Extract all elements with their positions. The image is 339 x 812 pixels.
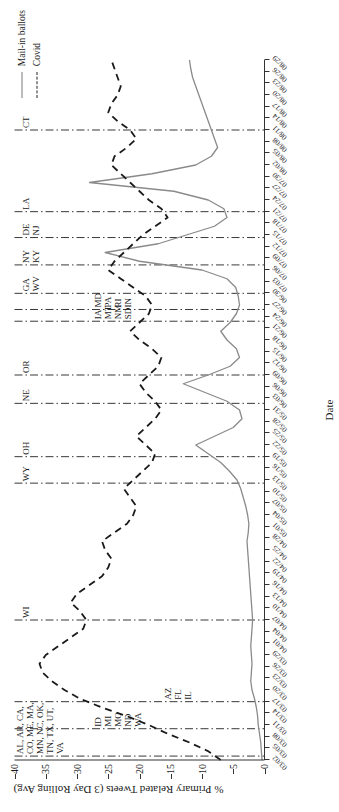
y-tick-mark (233, 769, 234, 774)
legend-label: Covid (31, 43, 41, 66)
series-lines (39, 60, 262, 760)
y-tick-mark (170, 774, 171, 779)
y-tick-mark (108, 774, 109, 779)
y-tick-label: 40 (9, 764, 20, 774)
y-tick-label: 25 (102, 764, 113, 774)
y-tick-label: 20 (134, 764, 145, 774)
y-tick-label: 5 (227, 764, 238, 769)
plot-area: 0510152025303540 03/0203/0503/0803/1103/… (14, 60, 264, 760)
y-tick-mark (264, 769, 265, 774)
chart-canvas (14, 60, 264, 760)
y-tick-label: 30 (71, 764, 82, 774)
series-line-mail-in-ballots (89, 60, 262, 760)
chart-figure: % Primary Related Tweets (3 Day Rolling … (0, 0, 339, 812)
state-divider-rules (14, 130, 264, 756)
y-tick-mark (45, 774, 46, 779)
y-tick-label: 35 (40, 764, 51, 774)
y-tick-mark (139, 774, 140, 779)
legend-item-mail-in-ballots: Mail-in ballots (16, 10, 26, 98)
y-tick-mark (14, 774, 15, 779)
y-axis-title: % Primary Related Tweets (3 Day Rolling … (0, 784, 339, 796)
chart-legend: Mail-in ballots Covid (16, 10, 46, 98)
y-tick-mark (77, 774, 78, 779)
y-tick-label: 10 (196, 764, 207, 774)
x-tick-mark (264, 59, 269, 60)
y-tick-label: 0 (259, 764, 270, 769)
legend-swatch-solid-icon (21, 72, 22, 98)
y-tick-mark (202, 774, 203, 779)
legend-label: Mail-in ballots (16, 10, 26, 66)
x-axis-title: Date (322, 60, 334, 760)
legend-swatch-dashed-icon (36, 72, 37, 98)
y-tick-label: 15 (165, 764, 176, 774)
legend-item-covid: Covid (31, 10, 41, 98)
